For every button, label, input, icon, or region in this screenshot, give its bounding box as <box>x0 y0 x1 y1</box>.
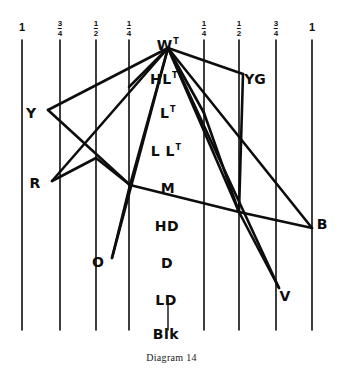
diagram-edge <box>52 158 96 181</box>
hue-label-b: B <box>317 217 328 231</box>
diagram-figure: 13412141412341 WTHLTLTL LTMHDDLDBlk YROY… <box>0 0 343 380</box>
scale-tick-label: 34 <box>274 20 278 37</box>
scale-tick-text: 1 <box>19 21 25 33</box>
hue-label-text: O <box>92 254 104 270</box>
value-label-m: M <box>161 181 175 195</box>
value-label-text: M <box>161 180 175 196</box>
fraction-numerator: 3 <box>58 20 62 28</box>
scale-tick-label: 12 <box>94 20 98 37</box>
fraction: 34 <box>274 20 278 37</box>
scale-tick-label: 34 <box>58 20 62 37</box>
value-label-text: HD <box>155 218 179 234</box>
value-label-text: Blk <box>153 326 179 342</box>
scale-tick-label: 1 <box>309 22 315 33</box>
value-label-text: D <box>161 255 173 271</box>
fraction-denominator: 2 <box>237 30 241 38</box>
hue-label-y: Y <box>26 106 36 120</box>
value-label-hd: HD <box>155 219 179 233</box>
hue-label-text: V <box>280 288 291 304</box>
hue-label-text: B <box>317 216 328 232</box>
diagram-edge <box>130 185 239 212</box>
fraction-denominator: 2 <box>94 30 98 38</box>
value-label-superscript: T <box>172 71 178 80</box>
value-label-superscript: T <box>175 143 181 152</box>
hue-label-text: YG <box>244 71 266 87</box>
fraction-denominator: 4 <box>58 30 62 38</box>
fraction: 12 <box>237 20 241 37</box>
fraction-numerator: 1 <box>94 20 98 28</box>
fraction: 14 <box>127 20 131 37</box>
value-label-blk: Blk <box>153 327 179 341</box>
fraction: 14 <box>202 20 206 37</box>
scale-tick-label: 14 <box>127 20 131 37</box>
value-label-lt: LT <box>160 106 176 120</box>
fraction-denominator: 4 <box>274 30 278 38</box>
fraction: 12 <box>94 20 98 37</box>
value-label-llt: L LT <box>151 144 182 158</box>
hue-label-v: V <box>280 289 291 303</box>
diagram-edge <box>204 113 239 212</box>
value-label-text: LD <box>155 292 177 308</box>
value-label-d: D <box>161 256 173 270</box>
fraction-denominator: 4 <box>127 30 131 38</box>
scale-tick-text: 1 <box>309 21 315 33</box>
value-label-hlt: HLT <box>150 72 178 86</box>
hue-label-yg: YG <box>244 72 266 86</box>
hue-value-lines <box>48 48 312 288</box>
fraction-numerator: 3 <box>274 20 278 28</box>
fraction: 34 <box>58 20 62 37</box>
value-label-text: L <box>160 105 169 121</box>
value-label-w: WT <box>157 38 179 52</box>
value-label-text: W <box>157 37 173 53</box>
hue-label-o: O <box>92 255 104 269</box>
hue-label-text: Y <box>26 105 36 121</box>
diagram-edge <box>239 212 279 288</box>
scale-tick-label: 14 <box>202 20 206 37</box>
fraction-numerator: 1 <box>127 20 131 28</box>
hue-label-text: R <box>30 175 41 191</box>
fraction-numerator: 1 <box>237 20 241 28</box>
diagram-edge <box>112 185 130 258</box>
fraction-numerator: 1 <box>202 20 206 28</box>
scale-tick-label: 12 <box>237 20 241 37</box>
figure-caption: Diagram 14 <box>0 352 343 363</box>
value-label-ld: LD <box>155 293 177 307</box>
value-label-text: L L <box>151 143 175 159</box>
value-label-superscript: T <box>170 105 176 114</box>
scale-tick-label: 1 <box>19 22 25 33</box>
value-label-text: HL <box>150 71 172 87</box>
fraction-denominator: 4 <box>202 30 206 38</box>
diagram-edge <box>96 158 130 185</box>
hue-label-r: R <box>30 176 41 190</box>
value-label-superscript: T <box>173 37 179 46</box>
